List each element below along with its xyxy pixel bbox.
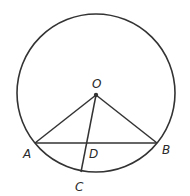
label-d: D	[89, 147, 98, 161]
label-c: C	[75, 180, 84, 194]
segment-ob	[96, 95, 157, 143]
label-a: A	[22, 147, 31, 161]
center-point-o	[94, 93, 98, 97]
label-o: O	[92, 77, 101, 91]
segment-oa	[35, 95, 96, 143]
geometry-diagram: O A B C D	[0, 0, 190, 196]
label-b: B	[162, 143, 170, 157]
